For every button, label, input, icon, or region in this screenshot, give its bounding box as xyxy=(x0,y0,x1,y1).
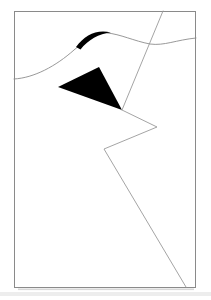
artwork-canvas xyxy=(0,0,211,300)
baseline-shadow-strip xyxy=(18,289,194,291)
border-frame xyxy=(15,12,196,288)
baseline-shadow-strip-soft xyxy=(0,292,211,296)
artwork-svg xyxy=(0,0,211,300)
